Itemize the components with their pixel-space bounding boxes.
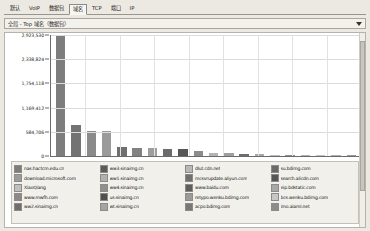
legend-color-swatch <box>100 203 108 211</box>
legend-item-label: download.microsoft.com <box>24 176 76 181</box>
bar-slot <box>282 35 297 156</box>
legend-item[interactable]: bcs.wenku.bdimg.com <box>271 193 356 202</box>
legend-item[interactable]: www.baidu.com <box>185 183 270 192</box>
legend-item[interactable]: download.microsoft.com <box>14 174 99 183</box>
legend-item-label: ww1.sinaimg.cn <box>110 176 144 181</box>
bar[interactable] <box>102 131 111 156</box>
legend-item[interactable]: www.mwfh.com <box>14 193 99 202</box>
legend-item[interactable]: us.sinaimg.cn <box>100 193 185 202</box>
legend-color-swatch <box>14 193 22 201</box>
legend-column: nas.hactcm.edu.cndownload.microsoft.comX… <box>14 164 100 221</box>
legend-item[interactable]: search.alicdn.com <box>271 174 356 183</box>
legend-columns: nas.hactcm.edu.cndownload.microsoft.comX… <box>14 164 356 221</box>
y-axis-tick-mark <box>45 131 49 132</box>
gridline-vertical <box>292 35 293 156</box>
y-axis-tick-label: 2,923,530 <box>22 33 44 38</box>
legend-item[interactable]: ww4.sinaimg.cn <box>100 183 185 192</box>
gridline-vertical <box>189 35 190 156</box>
legend-column: dlut.cdn.netmcsvrupdate.aliyun.comwww.ba… <box>185 164 271 221</box>
legend-item[interactable]: eip.bdstatic.com <box>271 183 356 192</box>
legend-item[interactable]: mcsvrupdate.aliyun.com <box>185 174 270 183</box>
bar[interactable] <box>239 154 248 156</box>
legend-item[interactable]: ww1.sinaimg.cn <box>100 174 185 183</box>
legend-item-label: mcsvrupdate.aliyun.com <box>195 176 247 181</box>
bar[interactable] <box>56 36 65 156</box>
bar[interactable] <box>209 153 218 156</box>
legend-color-swatch <box>271 184 279 192</box>
bar-slot <box>114 35 129 156</box>
bar[interactable] <box>178 149 187 156</box>
bar[interactable] <box>163 149 172 156</box>
bar[interactable] <box>132 148 141 156</box>
legend-color-swatch <box>100 165 108 173</box>
y-axis-tick-label: 0 <box>41 154 44 159</box>
gridline-horizontal <box>51 35 361 36</box>
gridline-horizontal <box>51 83 361 84</box>
y-axis-tick-mark <box>45 83 49 84</box>
legend-item[interactable]: acpo.bdimg.com <box>185 202 270 211</box>
legend-item-label: retypo.wenku.bdimg.com <box>195 195 249 200</box>
bar-slot <box>252 35 267 156</box>
legend-item-label: www.mwfh.com <box>24 195 58 200</box>
legend-column: ww3.sinaimg.cnww1.sinaimg.cnww4.sinaimg.… <box>100 164 186 221</box>
tab-1[interactable]: VoIP <box>25 3 44 14</box>
bar-slot <box>99 35 114 156</box>
tab-0[interactable]: 默认 <box>6 3 24 14</box>
tab-4[interactable]: TCP <box>88 3 106 14</box>
bar[interactable] <box>301 155 310 156</box>
legend-item-label: us.sinaimg.cn <box>110 195 139 200</box>
bar-slot <box>68 35 83 156</box>
legend-color-swatch <box>185 184 193 192</box>
bar[interactable] <box>87 131 96 156</box>
bar-slot <box>328 35 343 156</box>
bar[interactable] <box>331 155 340 156</box>
legend-color-swatch <box>14 184 22 192</box>
legend-color-swatch <box>271 193 279 201</box>
legend-color-swatch <box>100 184 108 192</box>
bar-slot <box>53 35 68 156</box>
bar[interactable] <box>316 155 325 156</box>
bar[interactable] <box>148 148 157 156</box>
legend-item-label: imo.aiaml.net <box>281 204 310 209</box>
gridline-horizontal <box>51 132 361 133</box>
legend-color-swatch <box>14 174 22 182</box>
bar[interactable] <box>224 153 233 156</box>
tab-3[interactable]: 域名 <box>69 4 87 15</box>
tab-5[interactable]: 端口 <box>107 3 125 14</box>
bar[interactable] <box>270 155 279 156</box>
y-axis-tick-label: 584,706 <box>26 129 44 134</box>
legend-item[interactable]: ww2.sinaimg.cn <box>14 202 99 211</box>
bar[interactable] <box>194 151 203 156</box>
tab-2[interactable]: 数据包 <box>45 3 68 14</box>
bar[interactable] <box>71 125 80 156</box>
scrollbar-thumb[interactable] <box>360 41 365 191</box>
legend-color-swatch <box>185 193 193 201</box>
legend-color-swatch <box>14 203 22 211</box>
legend-item-label: nas.hactcm.edu.cn <box>24 166 64 171</box>
tab-6[interactable]: IP <box>126 3 139 14</box>
bar-slot <box>191 35 206 156</box>
y-axis-tick-mark <box>45 156 49 157</box>
bar-slot <box>237 35 252 156</box>
bar[interactable] <box>117 147 126 156</box>
chart-selector-dropdown[interactable]: 全局 - Top 域名（数据包） <box>4 18 366 29</box>
legend-color-swatch <box>271 165 279 173</box>
legend-item[interactable]: dlut.cdn.net <box>185 164 270 173</box>
legend-item[interactable]: wt.sinaimg.cn <box>100 202 185 211</box>
vertical-scrollbar[interactable] <box>359 33 365 227</box>
legend-item[interactable]: retypo.wenku.bdimg.com <box>185 193 270 202</box>
legend-color-swatch <box>100 193 108 201</box>
bar[interactable] <box>285 155 294 156</box>
legend-item[interactable]: imo.aiaml.net <box>271 202 356 211</box>
legend-item[interactable]: su.bdimg.com <box>271 164 356 173</box>
legend-item[interactable]: ww3.sinaimg.cn <box>100 164 185 173</box>
bar-slot <box>160 35 175 156</box>
y-axis-tick-mark <box>45 107 49 108</box>
legend-item-label: acpo.bdimg.com <box>195 204 230 209</box>
legend-item[interactable]: nas.hactcm.edu.cn <box>14 164 99 173</box>
bar[interactable] <box>255 154 264 156</box>
chevron-down-icon[interactable] <box>355 20 362 27</box>
bar[interactable] <box>347 155 356 156</box>
legend-color-swatch <box>185 174 193 182</box>
legend-item[interactable]: XiaoQiang <box>14 183 99 192</box>
